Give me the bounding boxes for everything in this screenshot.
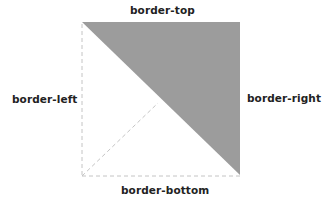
- diagonal-dashed: [82, 103, 158, 176]
- label-border-left: border-left: [12, 93, 78, 105]
- filled-triangle: [82, 22, 240, 175]
- label-border-right: border-right: [247, 92, 321, 104]
- label-border-top: border-top: [130, 4, 195, 16]
- label-border-bottom: border-bottom: [121, 184, 209, 196]
